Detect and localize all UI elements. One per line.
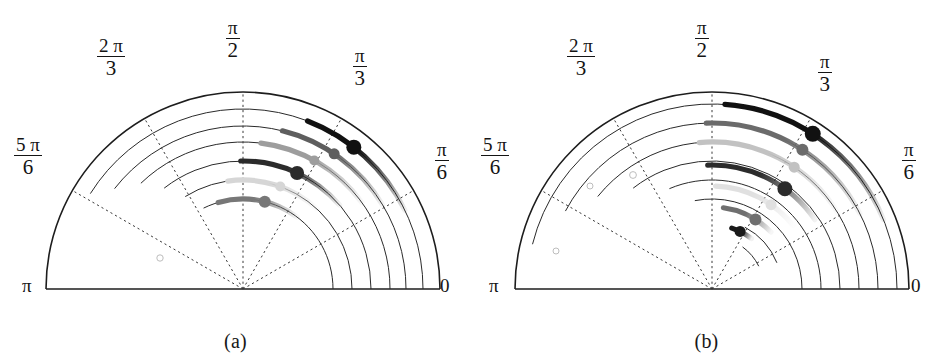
grid-arc-3 [115,126,406,289]
axis-label-5pi-over-6-b: 5 π6 [481,135,509,178]
axis-label-pi-over-3-a: π3 [353,46,367,89]
radial-gridline-150deg [72,191,243,290]
data-marker-2 [796,144,808,156]
faint-marker-1 [157,255,163,261]
axis-label-5pi-over-6-a: 5 π6 [14,135,42,178]
data-arc-6 [218,199,297,217]
axis-label-pi-over-3-b: π3 [818,52,832,95]
faint-marker-3 [630,172,637,179]
faint-marker-1 [587,183,593,189]
polar-panel-a: 0 π6 π3 π2 2 π3 5 π6 π (a) [0,0,471,361]
data-marker-2 [329,148,340,159]
radial-gridline-150deg [541,191,712,290]
figure-root: 0 π6 π3 π2 2 π3 5 π6 π (a) 0 π6 π3 π2 2 … [0,0,943,361]
grid-arc-2 [533,104,898,289]
polar-panel-b: 0 π6 π3 π2 2 π3 5 π6 π (b) [471,0,942,361]
data-marker-5 [275,182,285,192]
panel-caption-a: (a) [0,330,471,353]
axis-label-2pi-over-3-a: 2 π3 [97,36,125,79]
radial-gridline-120deg [145,118,244,289]
axis-label-pi-b: π [489,276,499,295]
axis-label-0-b: 0 [911,276,921,295]
data-arc-3 [261,143,362,203]
data-marker-7 [735,226,746,237]
panel-caption-b: (b) [471,330,942,353]
data-marker-6 [749,213,761,225]
data-marker-6 [259,196,271,208]
axis-label-pi-over-6-a: π6 [435,140,449,183]
data-marker-4 [290,166,304,180]
radial-gridline-60deg [243,118,342,289]
axis-label-2pi-over-3-b: 2 π3 [567,36,595,79]
data-marker-3 [309,155,319,165]
grid-arc-7 [204,199,333,289]
data-marker-5 [766,199,777,210]
axis-label-0-a: 0 [440,276,450,295]
data-marker-3 [789,162,800,173]
axis-label-pi-over-2-a: π2 [226,18,240,61]
data-marker-1 [346,140,361,155]
data-marker-1 [805,126,821,142]
grid-arc-9 [743,247,759,266]
axis-label-pi-a: π [22,276,32,295]
axis-label-pi-over-2-b: π2 [695,18,709,61]
faint-marker-2 [553,248,559,254]
data-marker-4 [777,181,792,196]
grid-arc-6 [185,180,352,289]
axis-label-pi-over-6-b: π6 [902,140,916,183]
